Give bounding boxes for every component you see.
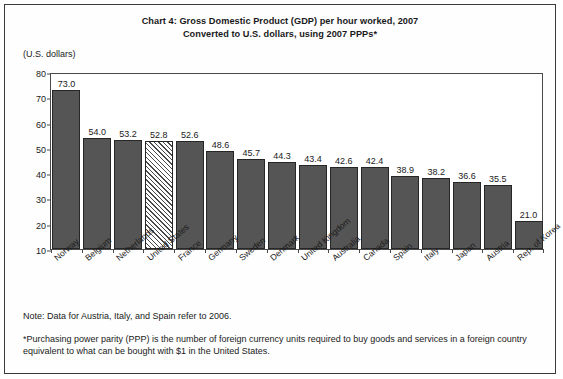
- y-axis-tick-label: 30: [36, 195, 46, 205]
- bar-value-label: 35.5: [489, 174, 507, 184]
- chart-title-block: Chart 4: Gross Domestic Product (GDP) pe…: [5, 15, 555, 40]
- bar-value-label: 38.2: [427, 167, 445, 177]
- x-axis-tick-mark: [267, 249, 268, 253]
- x-axis-tick-mark: [205, 249, 206, 253]
- bar-value-label: 54.0: [88, 127, 106, 137]
- bar-value-label: 36.6: [458, 171, 476, 181]
- x-axis-tick-mark: [82, 249, 83, 253]
- bar-value-label: 42.6: [335, 156, 353, 166]
- x-axis-tick-mark: [482, 249, 483, 253]
- y-axis-tick-label: 10: [36, 246, 46, 256]
- y-axis-tick-label: 40: [36, 170, 46, 180]
- x-axis-tick-mark: [174, 249, 175, 253]
- bar-japan: 36.6: [453, 182, 481, 249]
- x-axis-tick-mark: [51, 249, 52, 253]
- y-axis-tick-label: 20: [36, 221, 46, 231]
- bar-value-label: 52.6: [181, 130, 199, 140]
- y-axis-tick-mark: [47, 99, 51, 100]
- y-axis-tick-label: 70: [36, 94, 46, 104]
- y-axis-tick-mark: [47, 225, 51, 226]
- bar-belgium: 54.0: [83, 138, 111, 249]
- notes-block: Note: Data for Austria, Italy, and Spain…: [23, 310, 543, 357]
- y-axis-tick-label: 60: [36, 120, 46, 130]
- x-axis-tick-mark: [359, 249, 360, 253]
- bar-value-label: 52.8: [150, 130, 168, 140]
- x-axis-tick-mark: [113, 249, 114, 253]
- y-axis-tick-mark: [47, 149, 51, 150]
- bar-value-label: 45.7: [243, 148, 261, 158]
- bar-italy: 38.2: [422, 178, 450, 249]
- x-axis-tick-mark: [236, 249, 237, 253]
- bar-value-label: 43.4: [304, 154, 322, 164]
- bar-value-label: 21.0: [520, 210, 538, 220]
- x-axis-tick-mark: [421, 249, 422, 253]
- plot-area: 102030405060708073.054.053.252.852.648.6…: [50, 73, 543, 250]
- chart-title: Chart 4: Gross Domestic Product (GDP) pe…: [5, 15, 555, 28]
- y-axis-unit-label: (U.S. dollars): [23, 49, 76, 59]
- y-axis-tick-mark: [47, 74, 51, 75]
- y-axis-tick-mark: [47, 200, 51, 201]
- x-axis-tick-mark: [298, 249, 299, 253]
- x-axis-tick-mark: [543, 249, 544, 253]
- chart-figure: Chart 4: Gross Domestic Product (GDP) pe…: [4, 4, 556, 374]
- x-axis-tick-mark: [452, 249, 453, 253]
- bar-value-label: 53.2: [119, 129, 137, 139]
- x-axis-tick-mark: [143, 249, 144, 253]
- bar-value-label: 42.4: [366, 156, 384, 166]
- bar-spain: 38.9: [391, 176, 419, 249]
- data-note: Note: Data for Austria, Italy, and Spain…: [23, 310, 543, 322]
- y-axis-tick-mark: [47, 124, 51, 125]
- x-axis-tick-mark: [390, 249, 391, 253]
- bar-austria: 35.5: [484, 185, 512, 249]
- y-axis-tick-label: 50: [36, 145, 46, 155]
- bar-value-label: 48.6: [212, 140, 230, 150]
- y-axis-tick-label: 80: [36, 69, 46, 79]
- ppp-footnote: *Purchasing power parity (PPP) is the nu…: [23, 333, 543, 357]
- x-axis-tick-mark: [328, 249, 329, 253]
- chart-subtitle: Converted to U.S. dollars, using 2007 PP…: [5, 28, 555, 41]
- bar-value-label: 44.3: [273, 151, 291, 161]
- bar-value-label: 73.0: [58, 79, 76, 89]
- bar-value-label: 38.9: [397, 165, 415, 175]
- y-axis-tick-mark: [47, 175, 51, 176]
- bar-norway: 73.0: [52, 90, 80, 249]
- x-axis-tick-mark: [513, 249, 514, 253]
- bar-netherlands: 53.2: [114, 140, 142, 249]
